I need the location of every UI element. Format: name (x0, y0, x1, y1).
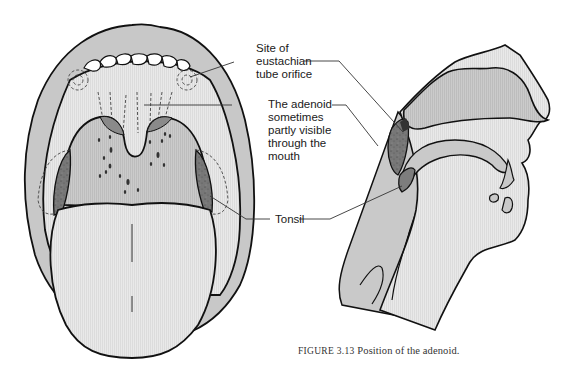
figure-caption-text: Position of the adenoid. (357, 345, 459, 356)
figure-number: FIGURE 3.13 (298, 346, 355, 356)
tongue (50, 203, 215, 358)
label-adenoid: The adenoid sometimes partly visible thr… (268, 98, 332, 163)
label-eustachian-tube: Site of eustachian tube orifice (256, 42, 312, 81)
adenoid-figure: Site of eustachian tube orifice The aden… (0, 0, 578, 377)
open-mouth-view (25, 24, 254, 358)
figure-caption: FIGURE 3.13 Position of the adenoid. (298, 345, 459, 356)
leader-adenoid (332, 105, 378, 146)
sagittal-head-view (339, 45, 549, 330)
label-tonsil: Tonsil (275, 213, 304, 226)
